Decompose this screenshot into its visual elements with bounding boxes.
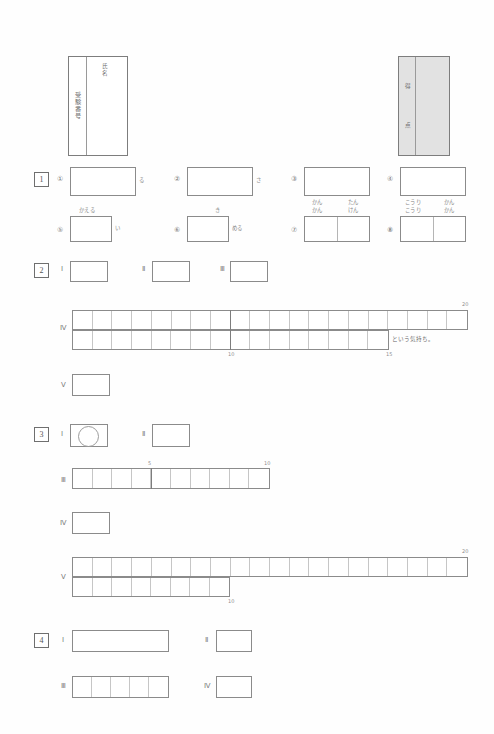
kana-annotation-1-8-right: かん <box>444 208 455 213</box>
score-label-top: 得 <box>404 83 410 90</box>
writing-grid-2-4-upper[interactable] <box>72 310 468 330</box>
kana-annotation-1-6b: める <box>232 226 243 231</box>
answer-box-2-1[interactable] <box>70 261 108 282</box>
answer-box-4-1[interactable] <box>72 630 169 652</box>
part-marker-4-2: Ⅱ <box>203 636 210 644</box>
part-marker-3-2: Ⅱ <box>140 430 147 438</box>
answer-sheet-page: 受験番号 氏名 得 点 1 ① る ② さ ③ ④ かえる ⑤ い き ⑥ める… <box>0 0 494 734</box>
answer-box-1-7[interactable] <box>304 216 370 242</box>
score-box: 得 点 <box>398 56 450 156</box>
answer-box-3-4[interactable] <box>72 512 110 534</box>
part-marker-3-4: Ⅳ <box>59 519 66 527</box>
part-marker-1-4: ④ <box>387 176 393 183</box>
part-marker-4-3: Ⅲ <box>59 682 66 690</box>
name-label: 氏名 <box>101 63 107 77</box>
kana-annotation-1-5b: い <box>115 226 120 231</box>
kana-annotation-1-8-left: こうり <box>405 208 421 213</box>
answer-box-1-4[interactable] <box>400 167 466 196</box>
kana-annotation-1-6: き <box>215 208 220 213</box>
part-marker-4-1: Ⅰ <box>59 636 66 644</box>
score-label-column: 得 点 <box>399 57 416 155</box>
grid-tick-3-5-mid: 10 <box>228 599 234 604</box>
exam-number-label-column: 受験番号 <box>69 57 87 155</box>
part-marker-1-8: ⑧ <box>387 227 393 234</box>
exam-number-entry-area[interactable]: 氏名 <box>87 57 127 155</box>
answer-cell[interactable] <box>305 217 338 241</box>
grid-tick-3-3-end: 10 <box>264 461 270 466</box>
part-marker-2-5: Ⅴ <box>59 381 66 389</box>
answer-cell[interactable] <box>434 217 466 241</box>
question-number-2: 2 <box>34 263 49 278</box>
part-marker-3-3: Ⅲ <box>59 476 66 484</box>
answer-box-1-5[interactable] <box>70 216 112 242</box>
part-marker-3-5: Ⅴ <box>59 573 66 581</box>
question-number-4: 4 <box>34 633 49 648</box>
part-marker-2-3: Ⅲ <box>218 265 225 273</box>
answer-box-1-2[interactable] <box>187 167 253 196</box>
part-marker-1-3: ③ <box>291 176 297 183</box>
kana-annotation-1-4-right: かん <box>444 200 455 205</box>
grid-tick-2-4-end: 20 <box>462 302 468 307</box>
answer-box-3-2[interactable] <box>152 424 190 447</box>
grid-tick-2-4-mid: 10 <box>228 352 234 357</box>
kana-annotation-1-3-left: かん <box>312 200 323 205</box>
exam-number-box[interactable]: 受験番号 氏名 <box>68 56 128 156</box>
answer-cell[interactable] <box>401 217 434 241</box>
circle-answer-mark-3-1 <box>78 426 99 447</box>
kana-annotation-1-3-right: たん <box>348 200 359 205</box>
answer-box-1-6[interactable] <box>187 216 229 242</box>
question-number-3: 3 <box>34 427 49 442</box>
part-marker-1-6: ⑥ <box>174 227 180 234</box>
grid-tick-3-3-mid: 5 <box>148 461 151 466</box>
part-marker-1-2: ② <box>174 176 180 183</box>
kana-annotation-1-4-left: こうり <box>405 200 421 205</box>
part-marker-2-2: Ⅱ <box>140 265 147 273</box>
grid-tick-3-5-end: 20 <box>462 549 468 554</box>
writing-grid-3-5-upper[interactable] <box>72 557 468 577</box>
writing-grid-3-3[interactable] <box>72 468 270 489</box>
part-marker-2-4: Ⅳ <box>59 324 66 332</box>
answer-box-1-1[interactable] <box>70 167 136 196</box>
grid-tick-2-4-step: 15 <box>386 352 392 357</box>
kana-annotation-1-7-left: かん <box>312 208 323 213</box>
score-label-bottom: 点 <box>404 122 410 129</box>
question-number-1: 1 <box>34 172 49 187</box>
answer-box-4-2[interactable] <box>216 630 252 652</box>
answer-box-2-3[interactable] <box>230 261 268 282</box>
part-marker-1-7: ⑦ <box>291 227 297 234</box>
part-marker-1-5: ⑤ <box>57 227 63 234</box>
answer-box-1-3[interactable] <box>304 167 370 196</box>
answer-box-2-5[interactable] <box>72 374 110 396</box>
grid-divider-2-4 <box>230 310 231 350</box>
grid-divider-3-3 <box>151 468 152 489</box>
answer-box-4-4[interactable] <box>216 676 252 698</box>
part-marker-2-1: Ⅰ <box>58 265 65 273</box>
exam-number-label: 受験番号 <box>74 92 80 120</box>
kana-annotation-1-2: さ <box>256 178 261 183</box>
kana-annotation-1-5: かえる <box>79 208 95 213</box>
part-marker-4-4: Ⅳ <box>203 682 210 690</box>
answer-box-2-2[interactable] <box>152 261 190 282</box>
writing-grid-3-5-lower[interactable] <box>72 577 230 597</box>
answer-box-1-8[interactable] <box>400 216 466 242</box>
answer-cell[interactable] <box>338 217 370 241</box>
kana-annotation-1-7-right: けん <box>348 208 359 213</box>
kana-annotation-1-1: る <box>139 178 144 183</box>
score-entry-area[interactable] <box>416 57 449 155</box>
part-marker-3-1: Ⅰ <box>58 430 65 438</box>
answer-grid-4-3[interactable] <box>72 676 169 698</box>
part-marker-1-1: ① <box>57 176 63 183</box>
printed-note-2-4: という気持ち。 <box>392 337 434 343</box>
